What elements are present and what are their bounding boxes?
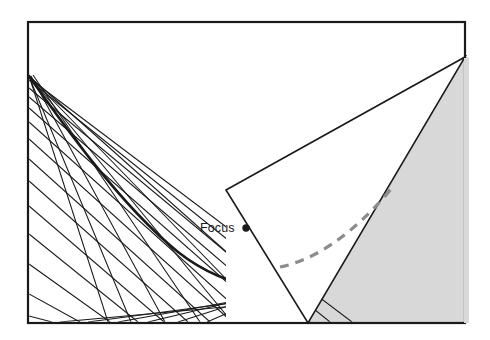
figure-root: Focus xyxy=(0,0,490,340)
parabola-envelope-diagram xyxy=(0,0,490,340)
focus-point xyxy=(242,224,249,231)
shaded-region-overflow xyxy=(464,58,469,323)
focus-label: Focus xyxy=(200,221,235,235)
